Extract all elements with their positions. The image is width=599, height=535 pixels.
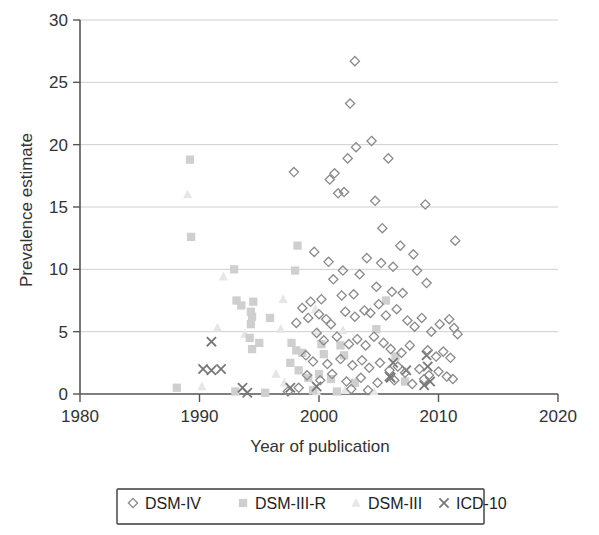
data-point-dsm-iv-62 [379, 338, 388, 347]
data-point-dsm-iii-9 [271, 369, 280, 378]
data-point-dsm-iv-83 [434, 367, 443, 376]
legend-marker-dsm-iii-r [239, 499, 247, 507]
prevalence-scatter-chart: 051015202530 19801990200020102020 Preval… [0, 0, 599, 535]
data-point-dsm-iv-34 [298, 303, 307, 312]
y-axis-ticks [73, 20, 80, 394]
x-axis-title: Year of publication [250, 437, 389, 456]
data-point-dsm-iii-r-11 [266, 314, 274, 322]
data-point-dsm-iii-11 [197, 381, 206, 390]
y-tick-label-0: 0 [59, 385, 68, 404]
data-point-dsm-iv-6 [289, 167, 298, 176]
data-point-dsm-iv-33 [306, 297, 315, 306]
data-point-dsm-iv-14 [310, 247, 319, 256]
data-point-dsm-iii-r-17 [287, 339, 295, 347]
data-point-dsm-iv-41 [350, 312, 359, 321]
data-point-dsm-iv-24 [355, 270, 364, 279]
data-point-dsm-iv-17 [409, 250, 418, 259]
y-tick-label-15: 15 [49, 198, 68, 217]
data-point-dsm-iii-r-26 [295, 366, 303, 374]
data-point-dsm-iii-r-16 [248, 345, 256, 353]
x-tick-label-2000: 2000 [300, 407, 338, 426]
data-point-dsm-iv-36 [304, 313, 313, 322]
data-point-dsm-iv-49 [417, 313, 426, 322]
data-point-dsm-iii-1 [219, 272, 228, 281]
data-point-dsm-iv-22 [422, 278, 431, 287]
data-point-dsm-iii-4 [279, 294, 288, 303]
data-point-dsm-iv-0 [350, 57, 359, 66]
data-point-dsm-iii-r-34 [261, 389, 269, 397]
data-point-dsm-iv-28 [387, 287, 396, 296]
x-tick-label-1980: 1980 [61, 407, 99, 426]
data-point-icd-10-0 [207, 337, 216, 346]
x-axis-tick-labels: 19801990200020102020 [61, 407, 577, 426]
x-tick-label-1990: 1990 [181, 407, 219, 426]
data-point-dsm-iv-20 [388, 262, 397, 271]
data-point-dsm-iv-31 [337, 291, 346, 300]
data-points-layer [173, 57, 463, 398]
data-point-dsm-iv-74 [348, 361, 357, 370]
data-point-dsm-iv-12 [421, 200, 430, 209]
data-point-dsm-iv-63 [386, 345, 395, 354]
data-point-dsm-iv-19 [377, 259, 386, 268]
data-point-dsm-iv-35 [292, 318, 301, 327]
data-point-icd-10-3 [216, 364, 225, 373]
data-point-dsm-iv-51 [435, 320, 444, 329]
data-point-dsm-iv-26 [329, 275, 338, 284]
data-point-dsm-iv-1 [345, 99, 354, 108]
data-point-dsm-iv-4 [384, 154, 393, 163]
data-point-dsm-iii-r-25 [286, 359, 294, 367]
data-point-dsm-iv-67 [432, 352, 441, 361]
data-point-dsm-iv-13 [451, 236, 460, 245]
y-axis-tick-labels: 051015202530 [49, 11, 68, 404]
data-point-dsm-iv-3 [351, 143, 360, 152]
data-point-dsm-iii-5 [276, 324, 285, 333]
data-point-dsm-iv-77 [375, 358, 384, 367]
data-point-dsm-iv-97 [294, 383, 303, 392]
data-point-dsm-iv-45 [381, 311, 390, 320]
data-point-dsm-iv-2 [367, 136, 376, 145]
legend-label-dsm-iii: DSM-III [368, 495, 422, 512]
data-point-dsm-iv-76 [365, 363, 374, 372]
data-point-dsm-iv-69 [446, 353, 455, 362]
data-point-dsm-iv-30 [349, 290, 358, 299]
legend: DSM-IVDSM-III-RDSM-IIIICD-10 [117, 489, 507, 524]
data-point-dsm-iii-8 [338, 325, 347, 334]
data-point-dsm-iv-71 [308, 357, 317, 366]
data-point-dsm-iv-39 [326, 320, 335, 329]
data-point-dsm-iv-89 [342, 377, 351, 386]
data-point-dsm-iv-58 [344, 340, 353, 349]
data-point-dsm-iii-r-32 [173, 384, 181, 392]
data-point-dsm-iii-r-21 [320, 350, 328, 358]
data-point-dsm-iv-65 [405, 341, 414, 350]
data-point-dsm-iv-15 [378, 224, 387, 233]
data-point-dsm-iii-r-7 [237, 301, 245, 309]
data-point-dsm-iv-48 [410, 322, 419, 331]
data-point-dsm-iv-46 [392, 305, 401, 314]
data-point-dsm-iv-54 [453, 330, 462, 339]
y-tick-label-25: 25 [49, 73, 68, 92]
data-point-dsm-iii-r-4 [291, 266, 299, 274]
data-point-dsm-iv-75 [357, 356, 366, 365]
data-point-icd-10-1 [198, 364, 207, 373]
data-point-dsm-iv-81 [415, 364, 424, 373]
data-point-dsm-iv-27 [372, 282, 381, 291]
legend-label-icd-10: ICD-10 [456, 495, 507, 512]
data-point-dsm-iii-r-3 [230, 265, 238, 273]
data-point-icd-10-11 [423, 362, 432, 371]
data-point-dsm-iv-40 [341, 307, 350, 316]
data-point-dsm-iv-21 [412, 266, 421, 275]
data-point-dsm-iv-32 [317, 295, 326, 304]
data-point-dsm-iii-r-2 [293, 242, 301, 250]
y-tick-label-20: 20 [49, 136, 68, 155]
data-point-dsm-iv-23 [338, 266, 347, 275]
data-point-dsm-iii-r-36 [333, 387, 341, 395]
data-point-dsm-iii-r-1 [187, 233, 195, 241]
series-dsm-iii-r [173, 155, 410, 396]
data-point-dsm-iii-r-15 [255, 339, 263, 347]
legend-label-dsm-iii-r: DSM-III-R [255, 495, 326, 512]
data-point-dsm-iv-72 [323, 359, 332, 368]
data-point-dsm-iii-r-10 [247, 320, 255, 328]
data-point-dsm-iii-r-9 [248, 313, 256, 321]
data-point-dsm-iv-18 [362, 254, 371, 263]
data-point-icd-10-2 [207, 366, 216, 375]
